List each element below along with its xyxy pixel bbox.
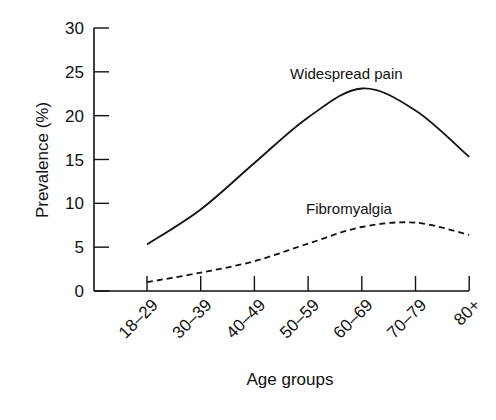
x-tick-label: 50–59: [276, 295, 323, 342]
x-tick-label: 60–69: [330, 295, 377, 342]
prevalence-chart: 051015202530 18–2930–3940–4950–5960–6970…: [0, 0, 496, 420]
x-ticks: 18–2930–3940–4950–5960–6970–7980+: [115, 276, 484, 342]
y-tick-label: 25: [65, 63, 84, 82]
x-tick-label: 70–79: [383, 295, 430, 342]
y-tick-label: 30: [65, 19, 84, 38]
y-tick-label: 0: [75, 282, 84, 301]
y-ticks: 051015202530: [65, 19, 109, 301]
x-tick-label: 40–49: [222, 295, 269, 342]
x-tick-label: 30–39: [169, 295, 216, 342]
series-lines: [147, 88, 469, 282]
series-line-fibromyalgia: [147, 222, 469, 282]
series-line-widespread-pain: [147, 88, 469, 244]
x-axis-title: Age groups: [247, 370, 334, 389]
y-axis-title: Prevalence (%): [33, 102, 52, 218]
series-label-widespread-pain: Widespread pain: [290, 65, 403, 82]
series-label-fibromyalgia: Fibromyalgia: [306, 200, 393, 217]
y-tick-label: 5: [75, 238, 84, 257]
y-tick-label: 10: [65, 194, 84, 213]
x-tick-label: 18–29: [115, 295, 162, 342]
y-tick-label: 20: [65, 107, 84, 126]
x-tick-label: 80+: [450, 295, 484, 329]
y-tick-label: 15: [65, 151, 84, 170]
axes: [94, 28, 469, 291]
